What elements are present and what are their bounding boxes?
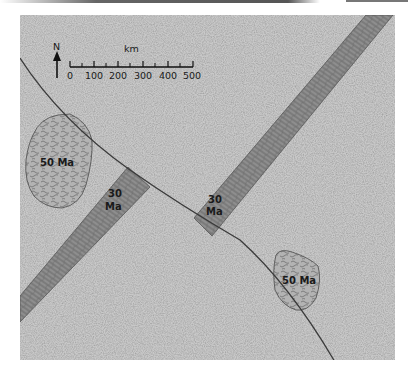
north-label: N — [53, 41, 60, 52]
geologic-map: N km 0 100 200 300 400 500 50 Ma 50 Ma 3… — [0, 0, 408, 376]
intrusion-right-label: 50 Ma — [282, 275, 316, 286]
scale-tick-100: 100 — [85, 70, 103, 81]
scale-tick-500: 500 — [183, 70, 201, 81]
scale-tick-0: 0 — [67, 70, 73, 81]
scale-tick-200: 200 — [109, 70, 127, 81]
scale-tick-400: 400 — [159, 70, 177, 81]
dike-right-label-line2: Ma — [206, 206, 223, 217]
dike-right-label-line1: 30 — [208, 194, 222, 205]
dike-left-label-line1: 30 — [108, 188, 122, 199]
scale-tick-300: 300 — [134, 70, 152, 81]
intrusion-left-label: 50 Ma — [40, 157, 74, 168]
scale-unit: km — [124, 43, 139, 54]
dike-left-label-line2: Ma — [105, 201, 122, 212]
